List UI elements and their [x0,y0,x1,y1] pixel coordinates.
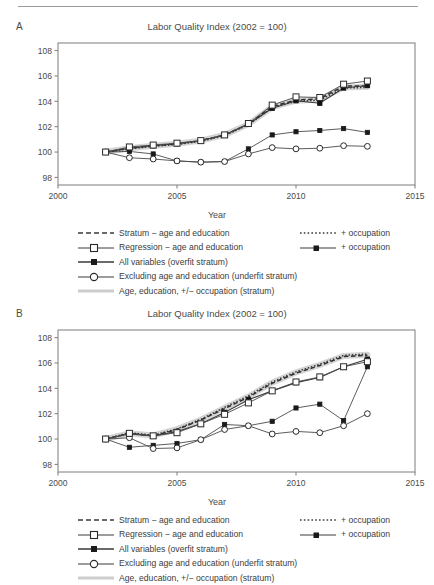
legend-item: + occupation [300,226,434,241]
top-rule-divider [18,6,418,7]
y-tick-label: 100 [38,147,52,157]
line-filled-square-icon [78,543,114,555]
legend-item: Excluding age and education (underfit st… [78,270,328,285]
legend-item: Regression − age and education [78,528,328,543]
x-tick-label: 2015 [406,478,425,488]
legend-item: + occupation [300,241,434,256]
line-open-square-icon [78,529,114,541]
panel-a-legend-left-column: Stratum − age and education Regression −… [78,226,328,299]
legend-label: Excluding age and education (underfit st… [119,272,297,281]
line-open-circle-icon [78,271,114,283]
legend-label: Regression − age and education [119,243,243,252]
legend-label: Regression − age and education [119,530,243,539]
panel-b: B Labor Quality Index (2002 = 100) 98100… [0,305,434,585]
legend-label: All variables (overfit stratum) [119,258,228,267]
legend-label: + occupation [341,516,390,525]
x-tick-label: 2000 [49,478,68,488]
dashed-line-icon [78,227,114,239]
x-tick-label: 2005 [168,191,187,201]
legend-item: Age, education, +/− occupation (stratum) [78,284,328,299]
legend-item: + occupation [300,513,434,528]
line-open-circle-icon [78,558,114,570]
panel-a-legend: Stratum − age and education Regression −… [0,226,434,298]
legend-item: Excluding age and education (underfit st… [78,557,328,572]
y-tick-label: 102 [38,122,52,132]
legend-label: Stratum − age and education [119,516,230,525]
panel-a-title: Labor Quality Index (2002 = 100) [0,21,434,32]
x-tick-label: 2000 [49,191,68,201]
legend-item: Stratum − age and education [78,226,328,241]
y-tick-label: 106 [38,71,52,81]
thick-gray-band-icon [78,285,114,297]
legend-item: + occupation [300,528,434,543]
y-tick-label: 98 [43,460,53,470]
x-tick-label: 2010 [287,191,306,201]
line-filled-square-small-icon [300,529,336,541]
dotted-line-icon [300,227,336,239]
legend-label: + occupation [341,530,390,539]
y-tick-label: 100 [38,434,52,444]
legend-label: + occupation [341,229,390,238]
legend-item: Age, education, +/− occupation (stratum) [78,571,328,585]
panel-b-legend-right-column: + occupation + occupation [300,513,434,542]
x-tick-label: 2010 [287,478,306,488]
x-tick-label: 2015 [406,191,425,201]
line-filled-square-icon [78,256,114,268]
legend-label: Stratum − age and education [119,229,230,238]
legend-label: Excluding age and education (underfit st… [119,559,297,568]
legend-item: Stratum − age and education [78,513,328,528]
panel-a-xaxis-label: Year [0,210,434,220]
line-open-square-icon [78,242,114,254]
dashed-line-icon [78,514,114,526]
y-tick-label: 104 [38,97,52,107]
thick-gray-band-icon [78,572,114,584]
y-tick-label: 106 [38,358,52,368]
panel-b-legend-left-column: Stratum − age and education Regression −… [78,513,328,585]
y-tick-label: 108 [38,46,52,56]
panel-b-plot: 981001021041061082000200520102015 [0,322,434,477]
panel-a-legend-right-column: + occupation + occupation [300,226,434,255]
legend-label: Age, education, +/− occupation (stratum) [119,574,274,583]
legend-label: All variables (overfit stratum) [119,545,228,554]
line-filled-square-small-icon [300,242,336,254]
y-tick-label: 102 [38,409,52,419]
y-tick-label: 98 [43,173,53,183]
dotted-line-icon [300,514,336,526]
panel-b-svg: 981001021041061082000200520102015 [0,322,434,512]
figure-page: A Labor Quality Index (2002 = 100) 98100… [0,0,434,585]
legend-label: + occupation [341,243,390,252]
panel-a-plot: 981001021041061082000200520102015 [0,35,434,190]
legend-item: All variables (overfit stratum) [78,255,328,270]
legend-item: All variables (overfit stratum) [78,542,328,557]
panel-b-title: Labor Quality Index (2002 = 100) [0,308,434,319]
legend-label: Age, education, +/− occupation (stratum) [119,287,274,296]
x-tick-label: 2005 [168,478,187,488]
y-tick-label: 104 [38,384,52,394]
legend-item: Regression − age and education [78,241,328,256]
panel-a-svg: 981001021041061082000200520102015 [0,35,434,225]
y-tick-label: 108 [38,333,52,343]
panel-a: A Labor Quality Index (2002 = 100) 98100… [0,18,434,303]
panel-b-xaxis-label: Year [0,497,434,507]
panel-b-legend: Stratum − age and education Regression −… [0,513,434,585]
